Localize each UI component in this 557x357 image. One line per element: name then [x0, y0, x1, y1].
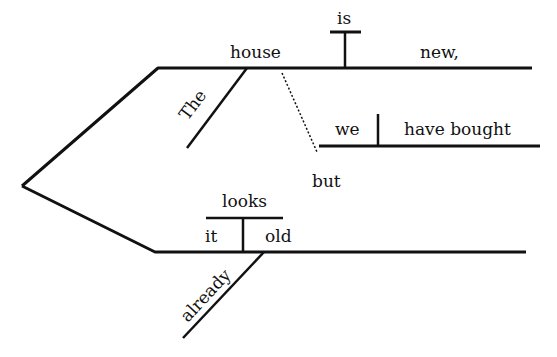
word-looks: looks [222, 193, 267, 210]
word-new: new, [420, 44, 459, 61]
word-old: old [265, 228, 292, 245]
word-but: but [312, 173, 341, 190]
sentence-diagram: is house new, The we have bought but loo… [0, 0, 557, 357]
word-have-bought: have bought [404, 121, 511, 138]
word-it: it [205, 228, 217, 245]
dotted-connector [282, 73, 317, 152]
word-we: we [335, 121, 360, 138]
word-house: house [230, 44, 281, 61]
word-is: is [337, 10, 351, 27]
